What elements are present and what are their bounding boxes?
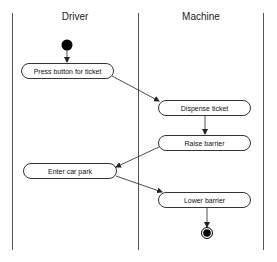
activity-press-button: Press button for ticket xyxy=(21,63,114,79)
initial-node xyxy=(62,40,73,51)
final-node-inner xyxy=(203,229,211,237)
activity-diagram: Driver Machine Press button for ticket D… xyxy=(0,0,277,262)
activity-raise-barrier: Raise barrier xyxy=(158,135,251,151)
diagram-connectors xyxy=(0,0,277,262)
edge-raise-to-enter xyxy=(116,147,159,167)
lane-title-driver: Driver xyxy=(25,11,125,22)
activity-lower-barrier: Lower barrier xyxy=(158,192,251,208)
lane-title-machine: Machine xyxy=(151,11,251,22)
activity-dispense-ticket: Dispense ticket xyxy=(158,100,251,116)
edge-press-to-dispense xyxy=(112,76,159,101)
activity-enter-car-park: Enter car park xyxy=(23,163,117,179)
